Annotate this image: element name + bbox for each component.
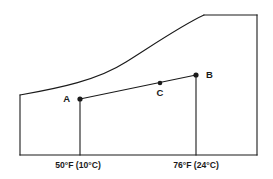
axis-label-left-temperature: 50°F (10°C) xyxy=(55,160,101,170)
axis-label-right-temperature: 76°F (24°C) xyxy=(173,160,219,170)
diagram-canvas: A C B 50°F (10°C) 76°F (24°C) xyxy=(0,0,273,179)
point-label-a: A xyxy=(63,93,70,104)
point-label-c: C xyxy=(157,87,164,98)
saturation-curve xyxy=(20,15,204,95)
point-marker-c xyxy=(158,81,163,86)
point-marker-b xyxy=(193,72,198,77)
point-marker-a xyxy=(77,96,82,101)
process-line-a-to-b xyxy=(80,75,196,99)
point-label-b: B xyxy=(206,69,213,80)
psychrometric-chart: A C B 50°F (10°C) 76°F (24°C) xyxy=(0,0,273,179)
